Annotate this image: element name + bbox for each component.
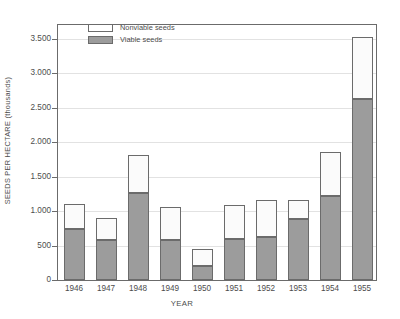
bar-segment-viable [192,266,213,280]
bar-1951 [224,205,245,280]
y-axis-tick-label: 3.500 [31,35,52,43]
chart-figure: SEEDS PER HECTARE (thousands) Nonviable … [0,0,400,319]
y-axis-tick-label: 2.500 [31,104,52,112]
x-axis-tick-label: 1955 [353,285,371,293]
gridline [58,108,376,109]
x-axis-tick-label: 1954 [321,285,339,293]
legend: Nonviable seeds Viable seeds [88,22,175,46]
y-axis-title-text: SEEDS PER HECTARE (thousands) [4,77,13,204]
legend-label-nonviable: Nonviable seeds [120,24,175,31]
bar-segment-viable [320,196,341,280]
bar-1953 [288,200,309,280]
bar-segment-nonviable [320,152,341,196]
bar-segment-nonviable [224,205,245,238]
y-axis-tick [52,108,57,109]
x-axis-tick-label: 1948 [129,285,147,293]
bar-1950 [192,249,213,280]
bar-segment-viable [256,237,277,280]
legend-swatch-nonviable-icon [88,24,113,32]
bar-segment-viable [288,219,309,280]
bar-segment-nonviable [96,218,117,240]
y-axis-title: SEEDS PER HECTARE (thousands) [0,0,16,281]
y-axis-tick [52,280,57,281]
y-axis-tick [52,73,57,74]
bar-1947 [96,218,117,280]
bar-1952 [256,200,277,280]
y-axis-tick [52,177,57,178]
y-axis-tick-label: 0 [46,276,51,284]
legend-item-nonviable: Nonviable seeds [88,22,175,33]
x-axis-tick-label: 1951 [225,285,243,293]
bar-segment-nonviable [256,200,277,236]
x-axis-title-text: YEAR [171,299,193,308]
legend-item-viable: Viable seeds [88,34,175,45]
bar-segment-viable [224,239,245,280]
bar-segment-nonviable [160,207,181,240]
bar-segment-nonviable [288,200,309,219]
bar-segment-viable [160,240,181,280]
x-axis-tick-label: 1946 [65,285,83,293]
bar-segment-viable [64,229,85,280]
y-axis-tick-label: 2.000 [31,138,52,146]
bar-1948 [128,155,149,280]
x-axis-tick-label: 1947 [97,285,115,293]
bar-segment-viable [352,99,373,280]
gridline [58,142,376,143]
y-axis-tick-label: 3.000 [31,69,52,77]
y-axis-tick [52,246,57,247]
bar-1946 [64,204,85,280]
x-axis-tick-label: 1950 [193,285,211,293]
y-axis-tick-label: 500 [37,241,51,249]
y-axis-tick [52,39,57,40]
gridline [58,73,376,74]
x-axis-title: YEAR [0,299,400,308]
bar-segment-viable [128,193,149,280]
plot-inner [58,25,376,280]
bar-1954 [320,152,341,280]
bar-segment-nonviable [192,249,213,266]
bar-segment-viable [96,240,117,280]
bar-segment-nonviable [128,155,149,193]
bar-segment-nonviable [352,37,373,99]
y-axis-tick-label: 1.000 [31,207,52,215]
bar-1955 [352,37,373,280]
legend-swatch-viable-icon [88,36,113,44]
plot-area [57,24,377,281]
x-axis-tick-label: 1952 [257,285,275,293]
bar-1949 [160,207,181,280]
bar-segment-nonviable [64,204,85,229]
y-axis-tick-label: 1.500 [31,173,52,181]
x-axis-tick-label: 1949 [161,285,179,293]
x-axis-tick-label: 1953 [289,285,307,293]
y-axis-tick [52,142,57,143]
y-axis-tick [52,211,57,212]
legend-label-viable: Viable seeds [120,36,162,43]
